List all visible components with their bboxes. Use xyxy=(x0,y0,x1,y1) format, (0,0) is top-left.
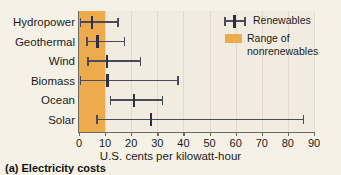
legend-label-renewables: Renewables xyxy=(253,14,311,27)
low-cap xyxy=(110,96,112,105)
range-line xyxy=(110,99,162,101)
range-line xyxy=(97,119,303,121)
value-marker xyxy=(91,16,94,29)
gridline xyxy=(183,11,184,132)
category-label-solar: Solar xyxy=(1,114,75,126)
error-bar-icon xyxy=(222,14,248,27)
low-cap xyxy=(87,57,89,66)
high-cap xyxy=(124,37,126,46)
range-line xyxy=(87,41,125,43)
tick xyxy=(79,132,80,136)
low-cap xyxy=(96,115,98,124)
tick xyxy=(105,132,106,136)
low-cap xyxy=(86,37,88,46)
category-label-wind: Wind xyxy=(1,55,75,67)
high-cap xyxy=(303,115,305,124)
tick-label-40: 40 xyxy=(171,137,195,149)
tick xyxy=(314,132,315,136)
electricity-costs-figure: HydropowerGeothermalWindBiomassOceanSola… xyxy=(0,0,341,175)
nonrenewables-range-band xyxy=(79,11,105,132)
tick-label-30: 30 xyxy=(145,137,169,149)
value-marker xyxy=(133,94,136,107)
value-marker xyxy=(106,74,109,87)
tick xyxy=(183,132,184,136)
legend: Renewables Range of nonrenewables xyxy=(222,14,341,62)
low-cap xyxy=(80,18,82,27)
x-axis-line xyxy=(78,132,315,133)
range-line xyxy=(80,21,118,23)
high-cap xyxy=(162,96,164,105)
gridline xyxy=(157,11,158,132)
range-line xyxy=(80,80,178,82)
high-cap xyxy=(177,76,179,85)
value-marker xyxy=(106,55,109,68)
tick-label-20: 20 xyxy=(119,137,143,149)
category-label-ocean: Ocean xyxy=(1,94,75,106)
tick-label-80: 80 xyxy=(276,137,300,149)
tick xyxy=(262,132,263,136)
category-label-biomass: Biomass xyxy=(1,75,75,87)
range-line xyxy=(88,60,140,62)
gridline xyxy=(105,11,106,132)
category-axis-labels: HydropowerGeothermalWindBiomassOceanSola… xyxy=(0,0,75,140)
tick-label-70: 70 xyxy=(250,137,274,149)
high-cap xyxy=(140,57,142,66)
tick-label-10: 10 xyxy=(93,137,117,149)
tick-label-0: 0 xyxy=(67,137,91,149)
tick-label-90: 90 xyxy=(302,137,326,149)
orange-swatch-icon xyxy=(225,34,242,43)
low-cap xyxy=(80,76,82,85)
y-axis-line xyxy=(78,11,79,133)
tick xyxy=(157,132,158,136)
legend-label-nonrenewables: Range of nonrenewables xyxy=(247,32,341,57)
gridline xyxy=(131,11,132,132)
tick-label-60: 60 xyxy=(224,137,248,149)
high-cap xyxy=(117,18,119,27)
tick xyxy=(131,132,132,136)
tick xyxy=(210,132,211,136)
tick-label-50: 50 xyxy=(198,137,222,149)
category-label-hydropower: Hydropower xyxy=(1,16,75,28)
tick xyxy=(236,132,237,136)
value-marker xyxy=(96,35,99,48)
legend-item-renewables: Renewables xyxy=(222,14,341,27)
figure-caption: (a) Electricity costs xyxy=(5,162,106,174)
x-axis-title: U.S. cents per kilowatt-hour xyxy=(0,150,341,162)
value-marker xyxy=(150,113,153,126)
category-label-geothermal: Geothermal xyxy=(1,36,75,48)
legend-item-nonrenewables: Range of nonrenewables xyxy=(222,32,341,57)
gridline xyxy=(210,11,211,132)
tick xyxy=(288,132,289,136)
